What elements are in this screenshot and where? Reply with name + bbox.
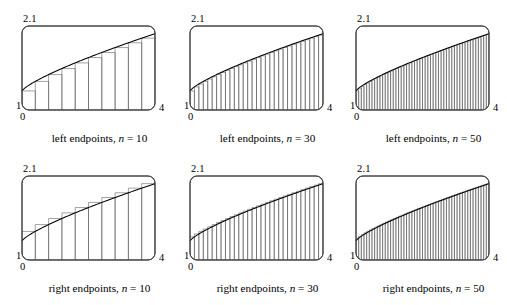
caption-variable-n: n <box>287 132 293 144</box>
x-axis-right-label: 4 <box>493 253 498 264</box>
plot-area-right-30 <box>183 164 352 291</box>
caption-rule-text: right endpoints, <box>49 282 119 294</box>
x-axis-left-label: 0 <box>188 112 193 123</box>
panel-caption-left-50: left endpoints, n = 50 <box>349 132 507 144</box>
caption-rule-text: left endpoints, <box>220 132 284 144</box>
caption-value: = 50 <box>464 282 484 294</box>
y-axis-bottom-label: 1 <box>184 251 189 262</box>
y-axis-bottom-label: 1 <box>350 101 355 112</box>
panel-caption-left-30: left endpoints, n = 30 <box>183 132 352 144</box>
plot-area-left-50 <box>349 14 507 141</box>
caption-variable-n: n <box>122 282 128 294</box>
y-axis-top-label: 2.1 <box>23 14 37 25</box>
x-axis-right-label: 4 <box>493 103 498 114</box>
x-axis-right-label: 4 <box>327 253 332 264</box>
riemann-panel-left-30: 2.1104left endpoints, n = 30 <box>183 14 352 166</box>
x-axis-right-label: 4 <box>159 103 164 114</box>
y-axis-bottom-label: 1 <box>16 101 21 112</box>
y-axis-bottom-label: 1 <box>350 251 355 262</box>
plot-area-left-30 <box>183 14 352 141</box>
x-axis-left-label: 0 <box>354 262 359 273</box>
riemann-panel-left-50: 2.1104left endpoints, n = 50 <box>349 14 507 166</box>
x-axis-left-label: 0 <box>20 262 25 273</box>
caption-rule-text: left endpoints, <box>52 132 116 144</box>
plot-area-right-10 <box>15 164 184 291</box>
x-axis-left-label: 0 <box>20 112 25 123</box>
panel-caption-right-10: right endpoints, n = 10 <box>15 282 184 294</box>
riemann-panel-right-10: 2.1104right endpoints, n = 10 <box>15 164 184 305</box>
caption-value: = 30 <box>298 282 318 294</box>
x-axis-right-label: 4 <box>159 253 164 264</box>
caption-rule-text: right endpoints, <box>383 282 453 294</box>
panel-caption-right-50: right endpoints, n = 50 <box>349 282 507 294</box>
caption-variable-n: n <box>456 282 462 294</box>
caption-variable-n: n <box>290 282 296 294</box>
panel-caption-right-30: right endpoints, n = 30 <box>183 282 352 294</box>
riemann-sum-figure-grid: 2.1104left endpoints, n = 102.1104left e… <box>0 0 507 305</box>
y-axis-top-label: 2.1 <box>191 164 205 175</box>
caption-value: = 30 <box>295 132 315 144</box>
panel-caption-left-10: left endpoints, n = 10 <box>15 132 184 144</box>
x-axis-left-label: 0 <box>188 262 193 273</box>
caption-rule-text: left endpoints, <box>386 132 450 144</box>
caption-variable-n: n <box>119 132 125 144</box>
caption-variable-n: n <box>453 132 459 144</box>
x-axis-left-label: 0 <box>354 112 359 123</box>
riemann-panel-left-10: 2.1104left endpoints, n = 10 <box>15 14 184 166</box>
plot-area-left-10 <box>15 14 184 141</box>
plot-area-right-50 <box>349 164 507 291</box>
x-axis-right-label: 4 <box>327 103 332 114</box>
y-axis-bottom-label: 1 <box>184 101 189 112</box>
riemann-panel-right-30: 2.1104right endpoints, n = 30 <box>183 164 352 305</box>
y-axis-top-label: 2.1 <box>357 14 371 25</box>
caption-value: = 10 <box>127 132 147 144</box>
y-axis-top-label: 2.1 <box>191 14 205 25</box>
y-axis-top-label: 2.1 <box>357 164 371 175</box>
y-axis-bottom-label: 1 <box>16 251 21 262</box>
caption-value: = 10 <box>130 282 150 294</box>
y-axis-top-label: 2.1 <box>23 164 37 175</box>
caption-value: = 50 <box>461 132 481 144</box>
caption-rule-text: right endpoints, <box>217 282 287 294</box>
riemann-panel-right-50: 2.1104right endpoints, n = 50 <box>349 164 507 305</box>
